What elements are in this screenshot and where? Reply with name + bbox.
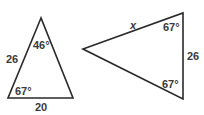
left-bottom-angle-label: 67°	[15, 85, 32, 97]
bottom-side-length-label: 20	[35, 101, 47, 113]
right-side-length-label: 26	[187, 50, 199, 62]
right-triangle: x 67° 67° 26	[83, 13, 199, 99]
left-triangle: 46° 67° 26 20	[6, 18, 73, 113]
left-side-length-label: 26	[6, 53, 18, 65]
right-bottom-angle-label: 67°	[162, 78, 179, 90]
unknown-side-x-label: x	[129, 19, 137, 31]
right-top-angle-label: 67°	[163, 21, 180, 33]
left-apex-angle-label: 46°	[33, 39, 50, 51]
diagram-canvas: 46° 67° 26 20 x 67° 67° 26	[0, 0, 204, 115]
